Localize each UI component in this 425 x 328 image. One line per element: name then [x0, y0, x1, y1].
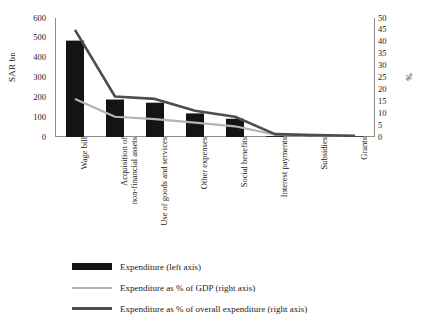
y-axis-right-title: % — [404, 67, 414, 87]
bar — [66, 41, 84, 137]
y-axis-left-tick-label: 500 — [22, 33, 46, 42]
y-axis-left-tick-label: 200 — [22, 93, 46, 102]
bar-swatch-icon — [72, 263, 112, 270]
legend-label: Expenditure as % of overall expenditure … — [114, 304, 307, 314]
y-axis-right-tick-label: 25 — [378, 73, 398, 82]
x-axis-category-label: Interest payments — [279, 137, 309, 247]
legend-item: Expenditure as % of GDP (right axis) — [70, 277, 420, 298]
y-axis-right-tick-label: 35 — [378, 49, 398, 58]
bar — [186, 113, 204, 137]
x-axis-category-labels: Wage billAcquisition of non-financial as… — [55, 137, 375, 247]
y-axis-right-tick-label: 40 — [378, 37, 398, 46]
y-axis-right-tick-label: 30 — [378, 61, 398, 70]
y-axis-right-tick-label: 50 — [378, 14, 398, 23]
legend-label: Expenditure as % of GDP (right axis) — [114, 283, 255, 293]
line-swatch-icon — [72, 287, 112, 289]
x-axis-category-label: Use of goods and services — [159, 137, 189, 247]
y-axis-left-tick-label: 400 — [22, 53, 46, 62]
chart-figure: SAR bn % 0100200300400500600 05101520253… — [0, 0, 425, 328]
y-axis-right-tick-label: 10 — [378, 109, 398, 118]
y-axis-left-tick-label: 0 — [22, 133, 46, 142]
legend-swatch — [70, 307, 114, 310]
y-axis-right-tick-label: 5 — [378, 121, 398, 130]
y-axis-right-tick-label: 20 — [378, 85, 398, 94]
y-axis-left-tick-label: 300 — [22, 73, 46, 82]
x-axis-category-label: Subsidies — [319, 137, 349, 247]
y-axis-left-ticks: 0100200300400500600 — [22, 0, 46, 328]
chart-legend: Expenditure (left axis)Expenditure as % … — [70, 256, 420, 319]
legend-swatch — [70, 263, 114, 270]
y-axis-left-title: SAR bn — [7, 42, 17, 92]
x-axis-category-label: Social benefits — [239, 137, 269, 247]
bar — [106, 100, 124, 137]
legend-label: Expenditure (left axis) — [114, 262, 201, 272]
y-axis-left-tick-label: 100 — [22, 113, 46, 122]
plot-area — [55, 18, 375, 137]
x-axis-category-label: Grants — [359, 137, 389, 247]
x-axis-category-label: Acquisition of non-financial assets — [119, 137, 149, 247]
line-swatch-icon — [72, 307, 112, 310]
plot-svg — [55, 18, 375, 137]
legend-item: Expenditure (left axis) — [70, 256, 420, 277]
y-axis-right-tick-label: 45 — [378, 25, 398, 34]
y-axis-left-tick-label: 600 — [22, 14, 46, 23]
y-axis-right-tick-label: 15 — [378, 97, 398, 106]
legend-swatch — [70, 287, 114, 289]
legend-item: Expenditure as % of overall expenditure … — [70, 298, 420, 319]
x-axis-category-label: Other expenses — [199, 137, 229, 247]
x-axis-category-label: Wage bill — [79, 137, 109, 247]
